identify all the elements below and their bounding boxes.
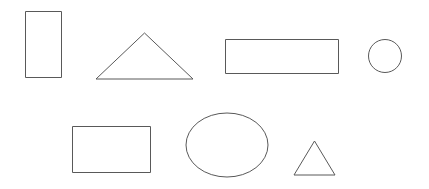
triangle-large [96,33,193,79]
rectangle-tall [26,12,62,78]
ellipse-wide [186,113,268,177]
circle-small [369,40,402,73]
rectangle-medium [73,127,151,173]
triangle-small [294,141,335,175]
rectangle-wide [226,40,339,74]
shape-canvas [0,0,429,189]
shapes-svg [0,0,429,189]
shape-layer [26,12,402,178]
